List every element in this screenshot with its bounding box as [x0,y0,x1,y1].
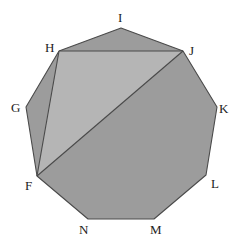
vertex-label-m: M [150,222,162,237]
vertex-label-j: J [189,43,194,58]
nonagon-diagram: IJKLMNFGH [0,0,241,247]
vertex-label-n: N [79,222,89,237]
vertex-label-f: F [25,178,32,193]
vertex-label-h: H [45,40,54,55]
diagram-canvas: IJKLMNFGH [0,0,241,247]
vertex-label-l: L [211,176,219,191]
vertex-label-i: I [118,10,122,25]
vertex-label-k: K [219,101,229,116]
vertex-label-g: G [11,100,20,115]
